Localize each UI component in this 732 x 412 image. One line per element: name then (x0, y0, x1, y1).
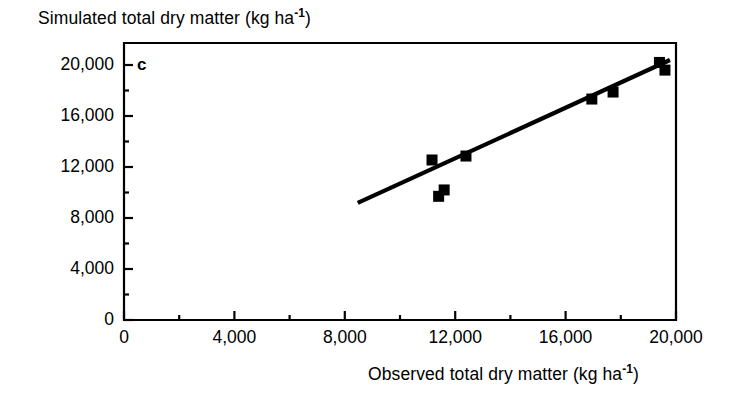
data-point-5 (608, 87, 619, 98)
data-point-2 (427, 154, 438, 165)
figure-panel-c: Simulated total dry matter (kg ha-1) Obs… (0, 0, 732, 412)
data-point-3 (460, 151, 471, 162)
data-point-7 (659, 65, 670, 76)
data-point-4 (586, 94, 597, 105)
regression-line (358, 60, 670, 203)
fit-line (358, 60, 670, 203)
plot-canvas (0, 0, 732, 412)
data-point-1 (439, 184, 450, 195)
